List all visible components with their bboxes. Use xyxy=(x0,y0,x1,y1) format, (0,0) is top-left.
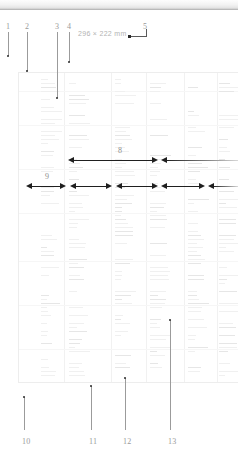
document-text-line xyxy=(219,147,227,148)
arrow-head-right-icon xyxy=(152,157,158,163)
document-text-line xyxy=(219,119,238,120)
document-text-line xyxy=(115,271,122,272)
leader-line-4 xyxy=(69,32,70,62)
document-text-line xyxy=(219,335,235,336)
document-text-line xyxy=(150,119,167,120)
document-page[interactable] xyxy=(18,72,238,383)
document-text-line xyxy=(188,167,208,168)
document-text-line xyxy=(69,323,84,324)
document-text-line xyxy=(150,219,167,220)
document-text-line xyxy=(69,179,79,180)
document-text-line xyxy=(188,307,202,308)
document-text-line xyxy=(219,219,236,220)
document-text-line xyxy=(219,327,236,328)
column-rule xyxy=(184,73,185,382)
document-text-line xyxy=(41,247,47,248)
document-text-line xyxy=(69,171,77,172)
document-text-line xyxy=(69,95,85,96)
dimension-shaft xyxy=(31,186,61,187)
document-text-line xyxy=(188,147,202,148)
document-text-line xyxy=(41,111,62,112)
dimension-row-9: 9 xyxy=(0,181,238,193)
document-text-line xyxy=(115,127,130,128)
document-text-line xyxy=(219,179,229,180)
document-text-line xyxy=(150,103,161,104)
document-text-line xyxy=(41,335,47,336)
document-text-line xyxy=(41,323,47,324)
paper-size-label: 296 × 222 mm xyxy=(78,30,127,37)
document-text-line xyxy=(69,339,82,340)
document-text-line xyxy=(188,239,204,240)
document-text-line xyxy=(115,227,133,228)
document-text-line xyxy=(188,371,200,372)
leader-line-3 xyxy=(57,32,58,98)
document-text-line xyxy=(150,347,171,348)
callout-label-12: 12 xyxy=(123,437,131,446)
document-text-line xyxy=(219,243,238,244)
leader-dot-11 xyxy=(90,385,92,387)
document-text-line xyxy=(150,279,169,280)
document-text-line xyxy=(115,259,133,260)
document-text-line xyxy=(219,115,238,116)
document-text-line xyxy=(188,87,198,88)
callout-label-10: 10 xyxy=(22,437,30,446)
document-text-line xyxy=(69,243,86,244)
dimension-elbow-horizontal xyxy=(131,36,146,37)
arrow-head-left-icon xyxy=(161,157,167,163)
document-text-line xyxy=(219,239,234,240)
callout-label-11: 11 xyxy=(89,437,97,446)
dimension-label-8: 8 xyxy=(118,146,122,155)
document-text-line xyxy=(41,167,54,168)
document-text-line xyxy=(219,363,230,364)
document-text-line xyxy=(69,259,87,260)
document-text-line xyxy=(150,299,166,300)
document-text-line xyxy=(41,195,50,196)
document-text-line xyxy=(115,79,121,80)
document-text-line xyxy=(41,87,56,88)
document-text-line xyxy=(69,83,76,84)
document-text-line xyxy=(188,179,196,180)
document-text-line xyxy=(115,139,132,140)
arrow-head-left-icon xyxy=(208,183,214,189)
document-text-line xyxy=(219,151,230,152)
document-text-line xyxy=(150,175,157,176)
document-text-line xyxy=(188,131,205,132)
callout-label-3: 3 xyxy=(55,22,59,31)
arrow-head-left-icon xyxy=(116,183,122,189)
document-text-line xyxy=(219,167,230,168)
document-text-line xyxy=(115,223,128,224)
document-text-line xyxy=(41,295,49,296)
arrow-head-right-icon xyxy=(106,183,112,189)
leader-dot-4 xyxy=(68,61,70,63)
document-text-line xyxy=(41,107,54,108)
leader-line-10 xyxy=(24,397,25,430)
leader-dot-2 xyxy=(26,70,28,72)
row-rule xyxy=(19,261,238,262)
document-text-line xyxy=(219,375,225,376)
document-text-line xyxy=(115,203,132,204)
document-text-line xyxy=(219,87,238,88)
dimension-shaft xyxy=(213,186,238,187)
document-text-line xyxy=(188,295,197,296)
document-text-line xyxy=(188,259,205,260)
document-text-line xyxy=(188,263,201,264)
document-text-line xyxy=(188,171,200,172)
dimension-shaft xyxy=(166,160,238,161)
document-text-line xyxy=(150,303,165,304)
document-text-line xyxy=(115,143,122,144)
dimension-segment xyxy=(208,181,238,193)
document-text-line xyxy=(41,151,54,152)
document-text-line xyxy=(150,367,162,368)
document-text-line xyxy=(41,371,56,372)
dimension-segment xyxy=(161,181,205,193)
document-text-line xyxy=(41,307,47,308)
document-text-line xyxy=(115,355,131,356)
document-text-line xyxy=(219,139,228,140)
dimension-segment xyxy=(161,155,238,167)
document-text-line xyxy=(69,103,86,104)
document-text-line xyxy=(69,371,84,372)
document-text-line xyxy=(69,267,84,268)
document-text-line xyxy=(150,207,164,208)
document-text-line xyxy=(219,203,226,204)
row-rule xyxy=(19,213,238,214)
